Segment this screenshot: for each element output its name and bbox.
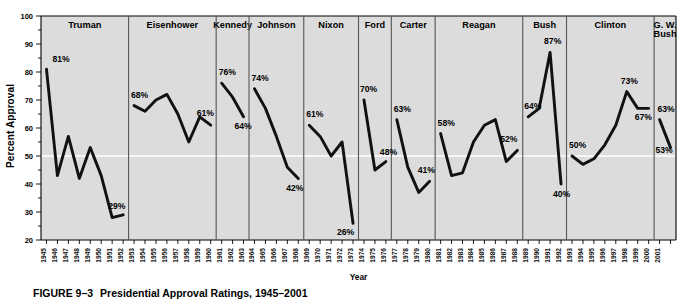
y-tick-label: 80 [25,68,33,77]
x-tick-label: 1956 [161,248,168,263]
x-tick-label: 1989 [522,248,529,263]
x-tick-label: 1987 [500,248,507,263]
value-annotation: 63% [394,104,412,114]
value-annotation: 64% [524,101,542,111]
value-annotation: 53% [656,145,674,155]
value-annotation: 48% [380,147,398,157]
x-tick-label: 1995 [588,248,595,263]
x-tick-label: 1992 [555,248,562,263]
president-label: Johnson [257,20,296,30]
x-tick-label: 1978 [402,248,409,263]
x-tick-label: 1962 [227,248,234,263]
x-tick-label: 1976 [380,248,387,263]
x-tick-label: 1961 [216,248,223,263]
x-tick-label: 1972 [336,248,343,263]
x-tick-label: 1946 [51,248,58,263]
figure-caption: FIGURE 9–3Presidential Approval Ratings,… [33,287,307,299]
x-tick-label: 1945 [40,248,47,263]
value-annotation: 61% [306,109,324,119]
x-tick-label: 1967 [281,248,288,263]
x-tick-label: 1980 [424,248,431,263]
x-tick-label: 2001 [654,248,661,263]
figure-container: Percent Approval 2030405060708090100Trum… [0,0,681,308]
x-axis-title: Year [350,272,368,282]
value-annotation: 61% [197,108,215,118]
x-tick-label: 1999 [632,248,639,263]
x-tick-label: 1974 [358,248,365,263]
value-annotation: 67% [635,112,653,122]
x-tick-label: 1960 [205,248,212,263]
figure-caption-title: Presidential Approval Ratings, 1945–2001 [100,287,307,299]
approval-line-chart: 2030405060708090100TrumanEisenhowerKenne… [0,0,681,286]
x-tick-label: 1985 [478,248,485,263]
value-annotation: 52% [500,134,518,144]
x-tick-label: 1963 [238,248,245,263]
x-tick-label: 1953 [128,248,135,263]
x-tick-label: 1984 [467,248,474,263]
x-tick-label: 1947 [62,248,69,263]
president-label: Ford [365,20,385,30]
x-tick-label: 1983 [457,248,464,263]
x-tick-label: 1981 [435,248,442,263]
x-tick-label: 1965 [259,248,266,263]
president-label: Reagan [462,20,496,30]
x-tick-label: 1948 [73,248,80,263]
value-annotation: 70% [360,84,378,94]
x-tick-label: 1957 [172,248,179,263]
value-annotation: 64% [235,121,253,131]
president-label: Truman [68,20,102,30]
x-tick-label: 1969 [303,248,310,263]
value-annotation: 68% [131,90,149,100]
value-annotation: 41% [418,165,436,175]
x-tick-label: 1949 [84,248,91,263]
president-label: Kennedy [213,20,253,30]
x-tick-label: 1996 [599,248,606,263]
x-tick-label: 1966 [270,248,277,263]
x-tick-label: 1952 [117,248,124,263]
president-label: Nixon [318,20,344,30]
y-tick-label: 90 [25,40,33,49]
value-annotation: 87% [544,36,562,46]
y-tick-label: 60 [25,124,33,133]
x-tick-label: 1968 [292,248,299,263]
x-tick-label: 1994 [577,248,584,263]
president-label: Carter [400,20,427,30]
x-tick-label: 1955 [150,248,157,263]
x-tick-label: 1954 [139,248,146,263]
value-annotation: 58% [438,118,456,128]
x-tick-label: 1975 [369,248,376,263]
x-tick-label: 1998 [621,248,628,263]
value-annotation: 26% [337,227,355,237]
y-tick-label: 30 [25,208,33,217]
value-annotation: 73% [621,76,639,86]
value-annotation: 50% [569,140,587,150]
y-tick-label: 70 [25,96,33,105]
value-annotation: 81% [52,54,70,64]
x-tick-label: 1997 [610,248,617,263]
value-annotation: 40% [553,189,571,199]
president-label: Eisenhower [147,20,199,30]
x-tick-label: 1979 [413,248,420,263]
y-tick-label: 50 [25,152,33,161]
x-tick-label: 1964 [248,248,255,263]
x-tick-label: 1982 [446,248,453,263]
x-tick-label: 1991 [544,248,551,263]
y-tick-label: 40 [25,180,33,189]
value-annotation: 74% [251,73,269,83]
x-tick-label: 1959 [194,248,201,263]
president-label: Clinton [594,20,626,30]
x-tick-label: 1973 [347,248,354,263]
x-tick-label: 1971 [325,248,332,263]
president-label: Bush [533,20,556,30]
x-tick-label: 1950 [95,248,102,263]
x-tick-label: 2000 [643,248,650,263]
x-tick-label: 1986 [489,248,496,263]
value-annotation: 63% [658,104,676,114]
x-tick-label: 1988 [511,248,518,263]
x-tick-label: 1958 [183,248,190,263]
value-annotation: 42% [286,183,304,193]
x-tick-label: 1951 [106,248,113,263]
x-tick-label: 1977 [391,248,398,263]
value-annotation: 29% [108,201,126,211]
value-annotation: 76% [219,67,237,77]
